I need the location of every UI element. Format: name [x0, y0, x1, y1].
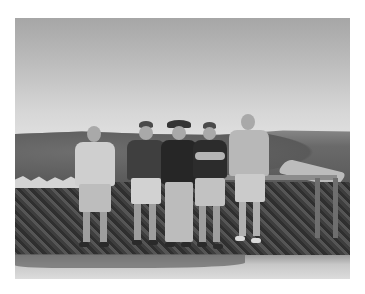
head	[203, 127, 216, 140]
light-tshirt	[229, 130, 269, 176]
photograph	[15, 18, 350, 279]
leg	[134, 204, 141, 240]
shorts	[79, 184, 111, 212]
head	[87, 126, 101, 142]
leg	[213, 206, 220, 242]
shoe	[79, 242, 89, 247]
sneaker	[235, 236, 245, 241]
ground-shadow	[15, 254, 245, 268]
railing-post	[315, 178, 320, 238]
leg	[199, 206, 206, 242]
shoe	[148, 240, 158, 245]
head	[241, 114, 255, 130]
leg	[253, 202, 260, 236]
long-pants	[165, 182, 193, 242]
dark-graphic-tshirt	[161, 140, 197, 184]
head	[172, 126, 186, 140]
dark-polo-shirt	[127, 140, 165, 180]
shorts	[195, 178, 225, 206]
shoe	[197, 242, 207, 247]
crossed-arms	[195, 152, 225, 160]
leg	[239, 202, 246, 236]
light-shirt	[75, 142, 115, 186]
shoe	[213, 244, 223, 249]
shoe	[99, 242, 109, 247]
leg	[83, 212, 90, 242]
sneaker	[251, 238, 261, 243]
head	[139, 126, 153, 140]
shoe	[132, 240, 142, 245]
shoe	[181, 242, 191, 247]
leg	[100, 212, 107, 242]
shoe	[165, 242, 175, 247]
leg	[149, 204, 156, 240]
sky	[15, 18, 350, 134]
railing-post	[333, 178, 338, 238]
shorts	[131, 178, 161, 204]
shorts	[235, 174, 265, 202]
